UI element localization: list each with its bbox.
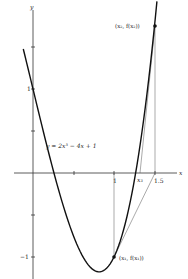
y-axis-label: y (29, 3, 34, 11)
y-tick-label-neg1: −1 (20, 253, 29, 260)
point-x1-label: (x₁, f(x₁)) (119, 255, 144, 261)
x-tick-label-1-5: 1.5 (154, 177, 164, 184)
equation-label: y = 2x³ − 4x + 1 (45, 142, 97, 150)
newton-method-plot: y x 1 −1 1 1.5 x₃ (x₁, f(x₁)) (x₂, f(x₂)… (0, 0, 188, 279)
tangent-at-x1 (114, 173, 155, 257)
x3-label: x₃ (137, 176, 143, 183)
x-tick-label-1: 1 (113, 177, 117, 184)
point-x2 (153, 24, 157, 28)
point-x2-label: (x₂, f(x₂)) (115, 23, 140, 29)
x-axis-label: x (179, 169, 183, 176)
point-x1 (112, 255, 116, 259)
y-tick-label-1: 1 (27, 85, 31, 92)
function-curve (23, 1, 157, 271)
